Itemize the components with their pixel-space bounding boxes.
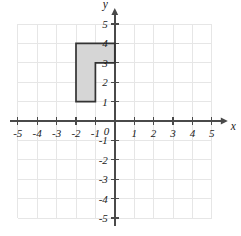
l-shaped-polygon — [76, 43, 115, 101]
x-tick-label: 3 — [169, 127, 176, 139]
y-tick-label: -3 — [99, 173, 109, 185]
y-tick-label: -2 — [99, 154, 109, 166]
x-tick-label: 1 — [131, 127, 137, 139]
y-axis-arrow-icon — [111, 8, 118, 15]
plotted-shapes — [76, 43, 115, 101]
x-tick-label: -3 — [52, 127, 62, 139]
x-tick-label: -2 — [71, 127, 81, 139]
x-axis-arrow-icon — [221, 118, 228, 125]
y-tick-label: 3 — [101, 57, 108, 69]
y-tick-label: 2 — [102, 76, 108, 88]
y-tick-label: -5 — [99, 212, 109, 224]
axes — [10, 8, 228, 226]
y-tick-label: -4 — [99, 193, 109, 205]
y-axis-label: y — [102, 0, 109, 11]
x-axis-label: x — [230, 120, 237, 132]
x-tick-label: 4 — [190, 127, 196, 139]
y-tick-label: 1 — [102, 96, 108, 108]
coordinate-plane-figure: -5-4-3-2-11234554321-1-2-3-4-5 x y 0 — [0, 0, 241, 236]
x-tick-label: 2 — [151, 127, 157, 139]
y-tick-label: 4 — [102, 37, 108, 49]
y-tick-label: 5 — [102, 18, 108, 30]
coordinate-plane-svg: -5-4-3-2-11234554321-1-2-3-4-5 x y 0 — [0, 0, 241, 236]
origin-label: 0 — [104, 125, 110, 137]
x-tick-label: 5 — [209, 127, 215, 139]
x-tick-label: -5 — [13, 127, 23, 139]
x-tick-label: -4 — [33, 127, 43, 139]
